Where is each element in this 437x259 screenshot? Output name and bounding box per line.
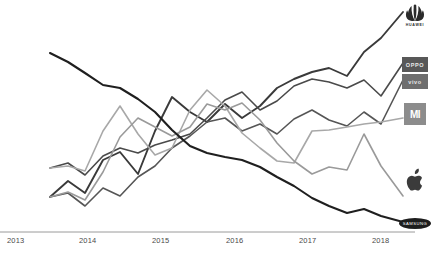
oppo-vivo-logo-stack: OPPO vivo	[393, 57, 437, 91]
x-tick-label-2017: 2017	[299, 236, 317, 245]
series-line-samsung	[50, 53, 403, 222]
samsung-ellipse-badge: SAMSUNG	[399, 218, 431, 229]
xiaomi-mi-badge: MI	[404, 103, 426, 125]
huawei-petal-icon	[404, 4, 426, 22]
huawei-logo: HUAWEI	[393, 4, 437, 27]
x-tick-label-2013: 2013	[7, 236, 25, 245]
x-axis-tick-labels: 201320142015201620172018	[0, 236, 437, 256]
x-tick-label-2018: 2018	[372, 236, 390, 245]
apple-logo	[393, 168, 437, 196]
x-tick-label-2016: 2016	[226, 236, 244, 245]
x-tick-label-2015: 2015	[152, 236, 170, 245]
x-tick-label-2014: 2014	[79, 236, 97, 245]
oppo-wordmark: OPPO	[406, 62, 424, 68]
xiaomi-wordmark: MI	[410, 109, 420, 120]
apple-icon	[405, 168, 425, 192]
line-chart-plot	[0, 0, 437, 259]
vivo-wordmark: vivo	[408, 79, 421, 85]
series-line-huawei	[50, 12, 403, 197]
series-lines-group	[50, 12, 403, 222]
huawei-wordmark: HUAWEI	[393, 23, 437, 27]
xiaomi-logo: MI	[393, 103, 437, 125]
vivo-logo: vivo	[402, 74, 428, 89]
series-line-apple	[50, 103, 403, 200]
samsung-logo: SAMSUNG	[393, 218, 437, 229]
oppo-logo: OPPO	[402, 57, 428, 72]
samsung-wordmark: SAMSUNG	[403, 221, 428, 226]
chart-container: 201320142015201620172018 HUAWEI OPPO viv…	[0, 0, 437, 259]
series-line-xiaomi	[50, 90, 403, 171]
brand-logo-column: HUAWEI OPPO vivo MI S	[393, 0, 437, 259]
